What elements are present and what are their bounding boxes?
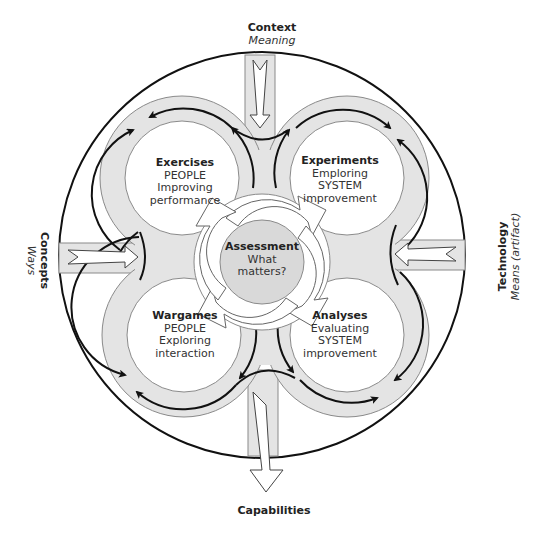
context-subtitle: Meaning: [232, 35, 312, 48]
analyses-title: Analyses: [290, 310, 390, 323]
wargames-line-3: interaction: [135, 348, 235, 361]
technology-subtitle: Means (artifact): [509, 202, 522, 312]
concepts-label: Concepts Ways: [25, 226, 50, 296]
technology-label: Technology Means (artifact): [497, 202, 522, 312]
quadrant-experiments: Experiments Emploring SYSTEM improvement: [290, 155, 390, 205]
assessment-line-2: matters?: [222, 266, 302, 279]
quadrant-wargames: Wargames PEOPLE Exploring interaction: [135, 310, 235, 360]
experiments-title: Experiments: [290, 155, 390, 168]
quadrant-exercises: Exercises PEOPLE Improving performance: [135, 157, 235, 207]
wargames-line-2: Exploring: [135, 335, 235, 348]
context-title: Context: [232, 22, 312, 35]
assessment-title: Assessment: [222, 241, 302, 254]
exercises-line-2: Improving: [135, 182, 235, 195]
concepts-title: Concepts: [37, 226, 50, 296]
capabilities-label: Capabilities: [224, 505, 324, 518]
experiments-line-2: SYSTEM: [290, 180, 390, 193]
wargames-title: Wargames: [135, 310, 235, 323]
analyses-line-2: SYSTEM: [290, 335, 390, 348]
assessment-label: Assessment What matters?: [222, 241, 302, 279]
technology-title: Technology: [497, 202, 510, 312]
exercises-line-3: performance: [135, 195, 235, 208]
concepts-subtitle: Ways: [25, 226, 38, 296]
context-label: Context Meaning: [232, 22, 312, 47]
analyses-line-3: improvement: [290, 348, 390, 361]
quadrant-analyses: Analyses Evaluating SYSTEM improvement: [290, 310, 390, 360]
exercises-title: Exercises: [135, 157, 235, 170]
experiments-line-3: improvement: [290, 193, 390, 206]
capabilities-title: Capabilities: [224, 505, 324, 518]
